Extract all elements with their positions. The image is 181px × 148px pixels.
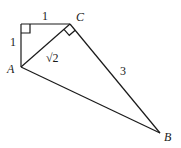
point-label-C: C [76,10,85,24]
point-label-B: B [164,130,172,144]
label-AC-length: √2 [46,51,59,65]
segment-CB [70,24,160,133]
right-angle-marker-corner [21,24,30,33]
point-label-A: A [6,62,15,76]
geometry-diagram: 1 1 √2 3 C A B [0,0,181,148]
label-left-length: 1 [10,35,16,49]
right-angle-marker-C [64,29,75,35]
segment-AB [21,67,160,133]
label-CB-length: 3 [120,64,126,78]
label-top-length: 1 [42,9,48,23]
